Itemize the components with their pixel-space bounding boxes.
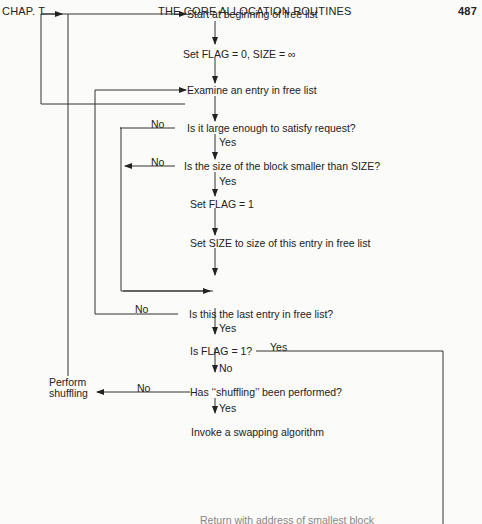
node-last-entry: Is this the last entry in free list? bbox=[189, 308, 333, 320]
label-no-large: No bbox=[151, 118, 164, 130]
label-no-shuffle: No bbox=[137, 382, 150, 394]
node-smaller: Is the size of the block smaller than SI… bbox=[184, 160, 380, 172]
label-yes-shuffle: Yes bbox=[219, 402, 236, 414]
flowchart-lines bbox=[0, 0, 482, 524]
node-start: Start at beginning of free list bbox=[187, 8, 318, 20]
label-no-flag: No bbox=[219, 362, 232, 374]
label-yes-last: Yes bbox=[219, 322, 236, 334]
node-examine: Examine an entry in free list bbox=[187, 84, 317, 96]
node-flag-check: Is FLAG = 1? bbox=[190, 345, 252, 357]
node-perform-shuffling-2: shuffling bbox=[49, 387, 88, 399]
node-large-enough: Is it large enough to satisfy request? bbox=[187, 122, 356, 134]
label-yes-smaller: Yes bbox=[219, 175, 236, 187]
label-yes-flag: Yes bbox=[270, 341, 287, 353]
label-yes-large: Yes bbox=[219, 136, 236, 148]
node-shuffled: Has ‘‘shuffling’’ been performed? bbox=[190, 386, 342, 398]
node-set-flag: Set FLAG = 1 bbox=[190, 198, 254, 210]
label-no-smaller: No bbox=[151, 156, 164, 168]
node-init: Set FLAG = 0, SIZE = ∞ bbox=[183, 48, 296, 60]
label-no-last: No bbox=[135, 303, 148, 315]
node-set-size: Set SIZE to size of this entry in free l… bbox=[190, 237, 370, 249]
node-return: Return with address of smallest block bbox=[200, 514, 374, 524]
node-swap: Invoke a swapping algorithm bbox=[191, 426, 324, 438]
